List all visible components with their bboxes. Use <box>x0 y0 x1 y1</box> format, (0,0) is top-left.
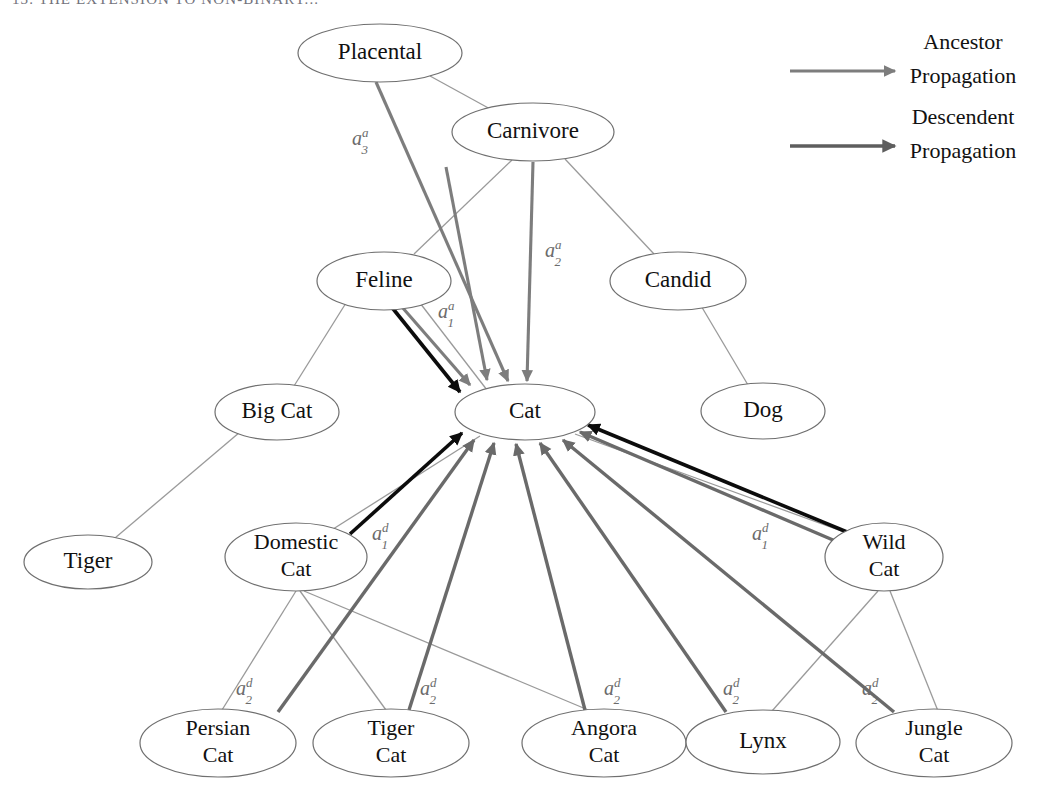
legend-label-ancestor-line2: Propagation <box>910 63 1016 88</box>
propagation-graph: PlacentalCarnivoreFelineCandidBig CatCat… <box>0 0 1045 797</box>
node-label-candid: Candid <box>645 267 712 292</box>
edge-label-label-a3a: aa3 <box>352 125 369 157</box>
descendent-arrow-desc-wildcat-black <box>588 425 847 532</box>
edge-label-label-a2d-angora: ad2 <box>604 675 621 707</box>
node-label-wild-cat: Wild <box>862 529 905 554</box>
node-label-persian-cat: Persian <box>186 715 251 740</box>
node-label-lynx: Lynx <box>739 728 787 753</box>
ancestor-arrow-anc-carnivore-cat-2 <box>527 162 533 381</box>
node-label-persian-cat: Cat <box>203 742 234 767</box>
node-label-domestic-cat: Domestic <box>254 529 339 554</box>
descendent-arrow-desc-angora-cat <box>516 444 585 710</box>
ancestor-arrow-anc-feline-cat <box>402 307 470 385</box>
node-label-tiger-cat: Tiger <box>368 715 416 740</box>
node-label-dog: Dog <box>743 397 783 422</box>
node-label-tiger-cat: Cat <box>376 742 407 767</box>
tree-edge-carnivore-candid <box>565 159 654 254</box>
edge-label-label-a1d-right: ad1 <box>752 520 769 552</box>
node-dog[interactable]: Dog <box>701 383 825 439</box>
edge-label-label-a2d-persian: ad2 <box>236 675 253 707</box>
legend-item-ancestor: AncestorPropagation <box>790 29 1016 88</box>
node-label-angora-cat: Angora <box>571 715 637 740</box>
tree-edge-wild-jungle <box>890 591 938 711</box>
node-label-wild-cat: Cat <box>869 556 900 581</box>
nodes-layer: PlacentalCarnivoreFelineCandidBig CatCat… <box>24 24 1012 777</box>
node-jungle-cat[interactable]: JungleCat <box>856 709 1012 777</box>
legend-label-ancestor-line1: Ancestor <box>923 29 1003 54</box>
tree-edge-candid-dog <box>700 304 748 385</box>
node-wild-cat[interactable]: WildCat <box>825 523 943 591</box>
edge-label-label-a2d-jungle: ad2 <box>862 675 879 707</box>
node-angora-cat[interactable]: AngoraCat <box>522 709 686 777</box>
figure-root: 13. THE EXTENSION TO NON-BINARY... Place… <box>0 0 1045 797</box>
edge-label-label-a1a: aa1 <box>438 298 455 330</box>
node-cat[interactable]: Cat <box>455 384 595 440</box>
legend-item-descendent: DescendentPropagation <box>790 104 1016 163</box>
node-tiger[interactable]: Tiger <box>24 535 152 589</box>
node-label-domestic-cat: Cat <box>281 556 312 581</box>
tree-edge-domestic-persian <box>222 591 296 710</box>
node-domestic-cat[interactable]: DomesticCat <box>225 523 367 591</box>
node-label-big-cat: Big Cat <box>242 398 314 423</box>
descendent-arrow-desc-tigercat-cat <box>409 443 494 710</box>
tree-edge-domestic-angora <box>304 591 593 712</box>
node-placental[interactable]: Placental <box>298 24 462 82</box>
node-tiger-cat[interactable]: TigerCat <box>313 709 469 777</box>
edge-label-label-a2d-lynx: ad2 <box>723 675 740 707</box>
node-label-feline: Feline <box>355 267 413 292</box>
node-lynx[interactable]: Lynx <box>686 710 840 774</box>
node-label-tiger: Tiger <box>64 548 113 573</box>
descendent-arrow-desc-domestic-cat-black <box>350 433 462 534</box>
node-feline[interactable]: Feline <box>317 252 451 310</box>
node-label-cat: Cat <box>509 398 542 423</box>
ancestor-arrow-anc-carnivore-cat <box>446 167 487 380</box>
edge-label-label-a1d-left: ad1 <box>372 520 389 552</box>
node-label-placental: Placental <box>338 39 422 64</box>
node-carnivore[interactable]: Carnivore <box>452 103 614 161</box>
node-label-jungle-cat: Cat <box>919 742 950 767</box>
node-candid[interactable]: Candid <box>610 252 746 310</box>
node-label-angora-cat: Cat <box>589 742 620 767</box>
edge-label-label-a2d-tigercat: ad2 <box>420 675 437 707</box>
tree-edge-feline-bigcat <box>294 303 346 386</box>
edge-label-label-a2a: aa2 <box>545 237 562 269</box>
legend-label-descendent-line2: Propagation <box>910 138 1016 163</box>
node-label-carnivore: Carnivore <box>487 118 579 143</box>
tree-edge-bigcat-tiger <box>115 432 240 538</box>
descendent-arrows-layer <box>278 425 894 712</box>
legend-layer: AncestorPropagationDescendentPropagation <box>790 29 1016 163</box>
node-persian-cat[interactable]: PersianCat <box>140 709 296 777</box>
tree-edge-carnivore-feline <box>414 160 512 254</box>
node-big-cat[interactable]: Big Cat <box>215 384 339 440</box>
tree-edge-placental-carnivore <box>430 76 492 110</box>
node-label-jungle-cat: Jungle <box>905 715 962 740</box>
tree-edge-domestic-tigercat <box>300 591 386 710</box>
legend-label-descendent-line1: Descendent <box>912 104 1015 129</box>
